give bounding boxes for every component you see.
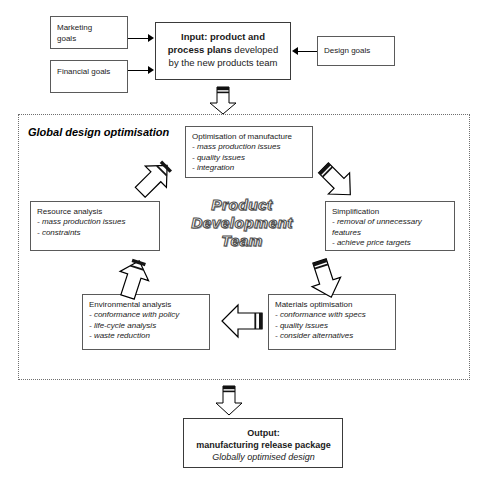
input-box-line-2-bold: process plans — [168, 44, 232, 55]
output-line-3: Globally optimised design — [190, 451, 337, 463]
connector-marketing-to-input — [128, 38, 149, 39]
stage-box-optimisation-of-manufacture: Optimisation of manufacture - mass produ… — [185, 126, 313, 178]
stage-heading: Resource analysis — [37, 206, 154, 217]
centre-wordmark-line-3: Team — [172, 232, 312, 250]
stage-bullet: - consider alternatives — [275, 331, 390, 342]
diagram-canvas: Marketing goals Financial goals Design g… — [0, 0, 488, 484]
cropped-header-text — [120, 0, 380, 9]
stage-bullet: - quality issues — [192, 153, 307, 164]
stage-bullet: - constraints — [37, 228, 154, 239]
design-goals-box: Design goals — [317, 36, 395, 66]
stage-bullets: - conformance with policy - life-cycle a… — [89, 310, 204, 342]
stage-bullet: - quality issues — [275, 321, 390, 332]
output-box: Output: manufacturing release package Gl… — [183, 418, 343, 468]
input-box-line-3: by the new products team — [160, 56, 286, 69]
stage-bullets: - mass production issues - quality issue… — [192, 142, 307, 174]
design-goals-line-1: Design goals — [324, 45, 389, 56]
stage-heading: Optimisation of manufacture — [192, 131, 307, 142]
stage-box-resource-analysis: Resource analysis - mass production issu… — [30, 201, 160, 251]
stage-bullets: - conformance with specs - quality issue… — [275, 310, 390, 342]
output-line-2: manufacturing release package — [190, 439, 337, 451]
centre-wordmark: Product Development Team — [172, 196, 312, 250]
arrowhead-marketing-to-input — [148, 34, 154, 42]
region-label: Global design optimisation — [28, 126, 169, 138]
output-line-1: Output: — [190, 427, 337, 439]
input-box-line-2: process plans developed — [160, 43, 286, 56]
stage-bullet: - integration — [192, 163, 307, 174]
centre-wordmark-line-1: Product — [172, 196, 312, 214]
stage-box-simplification: Simplification - removal of unnecessary … — [325, 201, 455, 251]
down-arrow-region-to-output — [214, 383, 244, 417]
connector-design-to-input — [298, 51, 317, 52]
stage-bullet: - mass production issues — [192, 142, 307, 153]
stage-bullet: - waste reduction — [89, 331, 204, 342]
input-box-line-2-plain: developed — [232, 44, 278, 55]
financial-goals-box: Financial goals — [50, 60, 128, 93]
stage-box-environmental-analysis: Environmental analysis - conformance wit… — [82, 294, 210, 350]
stage-bullets: - mass production issues - constraints — [37, 217, 154, 238]
input-box: Input: product and process plans develop… — [155, 22, 291, 80]
cycle-arrow-environmental-to-resource — [108, 252, 160, 302]
cycle-arrow-manufacture-to-simplification — [312, 156, 366, 208]
stage-bullet: - conformance with specs — [275, 310, 390, 321]
connector-financial-to-input — [128, 70, 149, 71]
diagram-title: Global design optimisation – product dev… — [0, 0, 1, 1]
input-box-line-1: Input: product and — [160, 30, 286, 43]
arrowhead-financial-to-input — [148, 66, 154, 74]
cycle-arrow-simplification-to-materials — [300, 256, 352, 306]
stage-bullet: - mass production issues — [37, 217, 154, 228]
centre-wordmark-line-2: Development — [172, 214, 312, 232]
financial-goals-line-1: Financial goals — [57, 66, 122, 77]
marketing-goals-line-1: Marketing — [57, 22, 122, 33]
stage-bullet: - removal of unnecessary features — [332, 217, 449, 238]
stage-bullet: - conformance with policy — [89, 310, 204, 321]
down-arrow-input-to-region — [208, 84, 238, 116]
stage-bullets: - removal of unnecessary features - achi… — [332, 217, 449, 249]
cycle-arrow-resource-to-manufacture — [126, 156, 180, 206]
cycle-arrow-materials-to-environmental — [218, 300, 266, 342]
arrowhead-design-to-input — [292, 47, 298, 55]
marketing-goals-line-2: goals — [57, 33, 122, 44]
stage-bullet: - achieve price targets — [332, 238, 449, 249]
stage-bullet: - life-cycle analysis — [89, 321, 204, 332]
marketing-goals-box: Marketing goals — [50, 16, 128, 49]
